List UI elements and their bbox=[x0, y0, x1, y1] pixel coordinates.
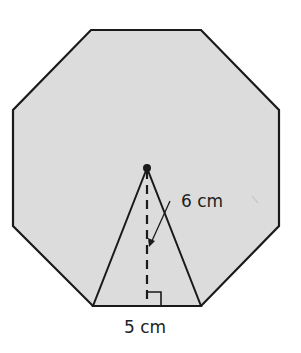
octagon-diagram: 6 cm 5 cm bbox=[0, 0, 301, 353]
center-point bbox=[143, 164, 151, 172]
height-label: 6 cm bbox=[181, 191, 223, 211]
base-label: 5 cm bbox=[124, 317, 166, 337]
